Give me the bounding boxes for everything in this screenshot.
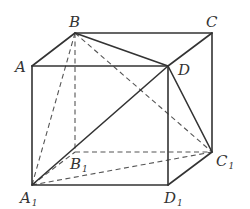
edge-b-a1 <box>32 33 75 185</box>
vertex-label-a: A <box>13 58 26 76</box>
vertex-labels: ABCDA1B1C1D1 <box>13 13 234 208</box>
visible-edges <box>32 33 212 185</box>
cube-diagram: ABCDA1B1C1D1 <box>0 0 250 209</box>
vertex-label-c1: C1 <box>216 152 234 171</box>
edge-d1-c1 <box>168 152 212 185</box>
vertex-label-c: C <box>206 13 218 31</box>
vertex-label-b: B <box>68 13 80 31</box>
edge-a-b <box>32 33 75 66</box>
edge-b-d <box>75 33 168 66</box>
vertex-label-d: D <box>177 61 190 79</box>
vertex-label-d1: D1 <box>163 189 183 208</box>
edge-a1-d <box>32 66 168 185</box>
edge-a1-c1 <box>32 152 212 185</box>
edge-b-c1 <box>75 33 212 152</box>
vertex-label-a1: A1 <box>18 189 38 208</box>
vertex-label-b1: B1 <box>69 155 88 174</box>
